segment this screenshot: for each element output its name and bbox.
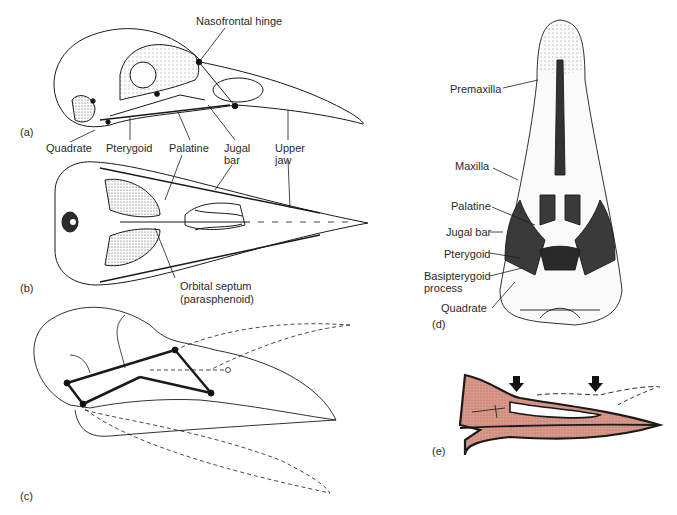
beak-section <box>460 375 660 455</box>
label-premaxilla: Premaxilla <box>450 83 501 95</box>
label-jugal: Jugal <box>224 142 250 154</box>
label-palatine: Palatine <box>169 142 209 154</box>
panel-label-e: (e) <box>432 445 445 457</box>
label-pterygoid-d: Pterygoid <box>444 248 490 260</box>
label-palatine-d: Palatine <box>451 200 491 212</box>
skull-lateral <box>54 28 363 142</box>
panel-label-b: (b) <box>20 282 33 294</box>
label-orbital-septum: Orbital septum <box>180 280 252 292</box>
panel-label-a: (a) <box>20 126 33 138</box>
label-upper-jaw: jaw <box>275 154 292 166</box>
label-quadrate-d: Quadrate <box>441 302 487 314</box>
figure-canvas <box>0 0 677 515</box>
label-pterygoid: Pterygoid <box>106 142 152 154</box>
label-quadrate: Quadrate <box>46 142 92 154</box>
label-jugal-bar-d: Jugal bar <box>446 226 491 238</box>
label-jugal-bar: bar <box>224 154 240 166</box>
palate-ventral <box>490 20 622 325</box>
label-maxilla: Maxilla <box>455 160 489 172</box>
label-nasofrontal-hinge: Nasofrontal hinge <box>196 15 282 27</box>
label-basipterygoid-process: process <box>424 282 463 294</box>
panel-label-d: (d) <box>432 318 445 330</box>
label-upper: Upper <box>275 142 305 154</box>
label-basipterygoid: Basipterygoid <box>424 270 491 282</box>
skull-ventral <box>55 155 368 285</box>
label-parasphenoid: (parasphenoid) <box>180 293 254 305</box>
kinetic-linkage-diagram <box>34 307 350 493</box>
panel-label-c: (c) <box>20 490 33 502</box>
